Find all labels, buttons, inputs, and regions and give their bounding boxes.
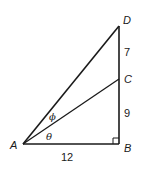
vertex-label-a: A [9,139,17,151]
length-label-cd: 7 [124,46,130,58]
segment-ac [23,79,119,144]
angle-label-theta: θ [46,131,52,142]
vertex-label-b: B [124,142,131,154]
vertex-label-d: D [123,14,131,26]
length-label-bc: 9 [124,107,130,119]
length-label-ab: 12 [61,151,73,163]
triangle-diagram: A B C D 7 9 12 ϕ θ [0,0,142,170]
vertex-label-c: C [124,73,132,85]
angle-label-phi: ϕ [49,111,56,122]
segment-ad [23,26,119,144]
right-angle-marker [113,138,119,144]
